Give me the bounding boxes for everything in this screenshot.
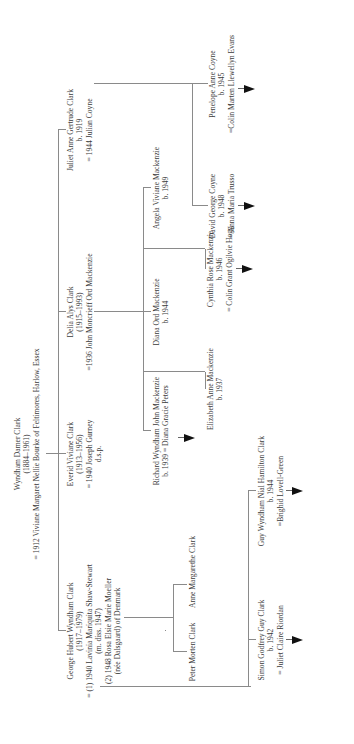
person-name: Diana Ord Mackenzie <box>152 278 161 345</box>
person-dates: b. 1949 <box>161 147 170 229</box>
person-richard: Richard Wyndham John Mackenzie b. 1939 =… <box>152 377 171 485</box>
marriage-text: =1936 John Moncrieff Ord Mackenzie <box>85 253 94 370</box>
arrow-down-icon <box>242 265 253 273</box>
george-m2-stem <box>124 617 173 618</box>
person-dates: b. 1946 <box>215 226 224 312</box>
juliet-stem <box>94 83 192 84</box>
person-george: George Hubert Wyndham Clark (1917–1979) … <box>66 564 122 698</box>
marriage-text: = Anna Maria Trusso <box>227 174 236 238</box>
marriage-text: =Brighid Lovell-Green <box>276 436 285 546</box>
person-name: George Hubert Wyndham Clark <box>66 564 75 698</box>
person-name: Elizabeth Anne Mackenzie <box>206 348 215 430</box>
root-person: Wyndham Damer Clark (1884–1961) = 1912 V… <box>13 348 41 559</box>
person-dates: (1917–1979) <box>75 564 84 698</box>
connector <box>143 187 151 188</box>
connector <box>192 83 208 84</box>
connector <box>173 584 187 585</box>
person-name: Penelope Anne Coyne <box>208 35 217 133</box>
arrow-down-icon <box>244 85 255 93</box>
person-dates: (1884–1961) <box>22 348 31 559</box>
marriage-text: = (1) 1940 Lavinia Mariquita Shaw-Stewar… <box>85 564 94 698</box>
person-name: Anne Margarethe Clark <box>188 536 197 608</box>
delia-stem <box>94 311 143 312</box>
person-dates: b. 1944 <box>266 436 275 546</box>
marriage-text: =Colin Marten Llewellyn Evans <box>227 35 236 133</box>
person-guy: Guy Wyndham Nial Hamilton Clark b. 1944 … <box>257 436 285 546</box>
person-name: Angela Viviane Mackenzie <box>152 147 161 229</box>
person-angela: Angela Viviane Mackenzie b. 1949 <box>152 147 171 229</box>
george-m1-stem <box>100 686 250 687</box>
root-stem <box>46 453 58 454</box>
connector <box>58 453 66 454</box>
person-juliet: Juliet Anne Gertrude Clark b. 1919 = 194… <box>66 89 94 171</box>
marriage-note: (m. diss. 1947) <box>94 564 103 698</box>
connector <box>165 630 166 631</box>
person-dates: (1913–1956) <box>75 420 84 489</box>
person-dates: b. 1944 <box>161 278 170 345</box>
george-m1-bottom-bar <box>248 491 249 687</box>
connector <box>143 371 205 372</box>
connector <box>143 248 205 249</box>
person-diana: Diana Ord Mackenzie b. 1944 <box>152 278 171 345</box>
marriage-text: = 1912 Viviane Margaret Nellie Bourke of… <box>32 348 41 559</box>
connector <box>248 639 256 640</box>
arrow-down-icon <box>292 636 303 644</box>
person-everid: Everid Viviane Clark (1913–1956) = 1940 … <box>66 420 104 489</box>
person-dates: b. 1937 <box>215 348 224 430</box>
george-m1-bar-a <box>250 686 251 687</box>
marriage-text: = 1940 Joseph Gurney <box>85 420 94 489</box>
marriage-text: = Juliet Claire Riordan <box>276 600 285 681</box>
connector <box>58 129 66 130</box>
person-cynthia: Cynthia Rose Mackenzie b. 1946 = Colin G… <box>206 226 234 312</box>
person-name: Peter Morten Clark <box>188 623 197 682</box>
person-name: Juliet Anne Gertrude Clark <box>66 89 75 171</box>
person-name: Everid Viviane Clark <box>66 420 75 489</box>
juliet-sibling-bar <box>192 84 193 206</box>
person-name: Delia Alys Clark <box>66 253 75 370</box>
connector <box>58 630 66 631</box>
george-m2-sibling-bar <box>173 585 174 652</box>
arrow-down-icon <box>292 487 303 495</box>
marriage-text-2: (2) 1948 Rosa Elsie Marie Moeller <box>104 564 113 698</box>
person-simon: Simon Godfrey Guy Clark b. 1942 = Juliet… <box>257 600 285 681</box>
connector <box>248 490 256 491</box>
person-name: Guy Wyndham Nial Hamilton Clark <box>257 436 266 546</box>
family-tree: Wyndham Damer Clark (1884–1961) = 1912 V… <box>0 0 354 744</box>
marriage-text: = 1944 Julian Coyne <box>85 89 94 171</box>
marriage-note: d.s.p. <box>94 420 103 489</box>
person-anne: Anne Margarethe Clark <box>188 536 197 608</box>
person-name: Simon Godfrey Guy Clark <box>257 600 266 681</box>
person-penelope: Penelope Anne Coyne b. 1945 =Colin Marte… <box>208 35 236 133</box>
person-dates: b. 1939 = Diana Gracie Peters <box>161 377 170 485</box>
person-dates: b. 1919 <box>75 89 84 171</box>
person-elizabeth: Elizabeth Anne Mackenzie b. 1937 <box>206 348 225 430</box>
marriage-note-2: (née Dalsgaard) of Denmark <box>113 564 122 698</box>
person-name: Richard Wyndham John Mackenzie <box>152 377 161 485</box>
arrow-down-icon <box>184 434 195 442</box>
person-name: David George Coyne <box>208 174 217 238</box>
gen2-sibling-bar <box>58 130 59 631</box>
connector <box>173 651 187 652</box>
connector <box>192 205 208 206</box>
person-dates: b. 1948 <box>217 174 226 238</box>
marriage-text: = Colin Grant Ogilvie Hogg <box>225 226 234 312</box>
delia-sibling-bar <box>143 188 144 431</box>
connector <box>143 311 151 312</box>
person-dates: b. 1942 <box>266 600 275 681</box>
person-dates: b. 1945 <box>217 35 226 133</box>
person-peter: Peter Morten Clark <box>188 623 197 682</box>
person-name: Wyndham Damer Clark <box>13 348 22 559</box>
person-delia: Delia Alys Clark (1915–1993) =1936 John … <box>66 253 94 370</box>
arrow-down-icon <box>244 202 255 210</box>
person-dates: (1915–1993) <box>75 253 84 370</box>
connector <box>58 311 66 312</box>
person-david: David George Coyne b. 1948 = Anna Maria … <box>208 174 236 238</box>
connector <box>143 430 151 431</box>
connector <box>100 686 101 687</box>
person-name: Cynthia Rose Mackenzie <box>206 226 215 312</box>
